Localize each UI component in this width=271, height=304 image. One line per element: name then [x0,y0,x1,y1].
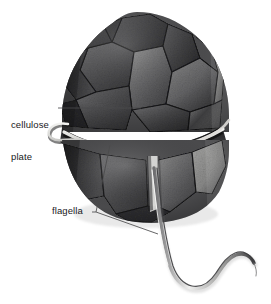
flagella-label: flagella [52,206,83,217]
cellulose-plate-label-line2: plate [11,152,49,163]
dinoflagellate-figure: cellulose plate flagella [0,0,271,304]
cellulose-plate-label-line1: cellulose [11,120,49,131]
cellulose-plate-label: cellulose plate [11,99,49,183]
flagella-leader-bracket [92,145,158,234]
